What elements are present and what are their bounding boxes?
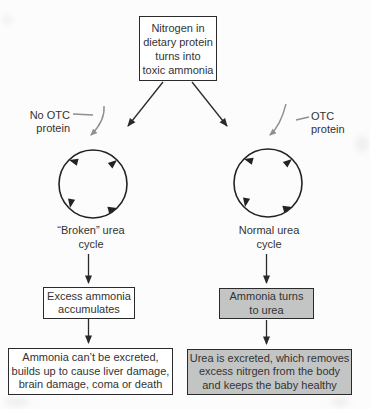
broken-urea-cycle-label: “Broken” urea cycle <box>41 223 141 251</box>
top-box: Nitrogen in dietary protein turns into t… <box>139 16 217 81</box>
arrow-top-to-left-cycle <box>128 82 163 126</box>
ammonia-to-urea-box: Ammonia turns to urea <box>219 288 314 319</box>
pointer-curve-no-otc <box>73 106 104 135</box>
otc-protein-label: OTC protein <box>311 110 361 136</box>
pointer-curve-otc <box>270 104 309 135</box>
urea-cycle-circle-right <box>234 149 302 217</box>
ammonia-damage-box: Ammonia can’t be excreted, builds up to … <box>8 348 173 395</box>
excess-ammonia-box: Excess ammonia accumulates <box>43 287 135 319</box>
normal-urea-cycle-label: Normal urea cycle <box>219 223 319 251</box>
otc-urea-cycle-diagram: Nitrogen in dietary protein turns into t… <box>0 0 370 409</box>
urea-cycle-circle-left <box>59 150 127 218</box>
arrow-top-to-right-cycle <box>192 82 227 126</box>
urea-excreted-box: Urea is excreted, which removes excess n… <box>187 349 352 395</box>
no-otc-protein-label: No OTC protein <box>22 109 70 135</box>
